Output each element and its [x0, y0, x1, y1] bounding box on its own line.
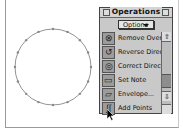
remove-overlap-icon: ⊗	[102, 32, 115, 45]
contour-point[interactable]	[87, 51, 89, 53]
op-remove-overlap[interactable]: ⊗ Remove Overlap	[101, 32, 162, 46]
scroll-down-arrow-icon[interactable]: ⇩	[162, 91, 171, 101]
contour-point[interactable]	[79, 93, 81, 95]
contour-point[interactable]	[90, 66, 92, 68]
operations-list: ⊗ Remove Overlap ↺ Reverse Direction ◎ C…	[101, 32, 162, 114]
grow-box[interactable]	[162, 104, 171, 114]
operations-palette: Operations Options ⊗ Remove Overlap ↺ Re…	[99, 7, 173, 114]
op-correct-direction[interactable]: ◎ Correct Direction	[101, 60, 162, 74]
palette-title-bar[interactable]: Operations	[100, 8, 172, 18]
op-envelope[interactable]: ▱ Envelope...	[101, 88, 162, 102]
contour-point[interactable]	[17, 51, 19, 53]
mouse-pointer-icon	[107, 109, 115, 121]
zoom-box[interactable]	[162, 9, 169, 16]
op-label: Remove Overlap	[118, 34, 162, 42]
contour-point[interactable]	[37, 101, 39, 103]
envelope-icon: ▱	[102, 88, 115, 101]
scroll-thumb[interactable]	[162, 74, 171, 88]
contour-point[interactable]	[25, 39, 27, 41]
vertical-scrollbar[interactable]: ⇧ ⇩	[161, 32, 171, 114]
contour-point[interactable]	[17, 80, 19, 82]
options-dropdown[interactable]: Options	[118, 20, 154, 29]
op-reverse-direction[interactable]: ↺ Reverse Direction	[101, 46, 162, 60]
correct-direction-icon: ◎	[102, 60, 115, 73]
op-label: Envelope...	[118, 90, 162, 98]
op-label: Add Points	[118, 104, 162, 112]
contour-point[interactable]	[87, 80, 89, 82]
op-label: Reverse Direction	[118, 48, 162, 56]
contour-point[interactable]	[14, 66, 16, 68]
contour-point[interactable]	[52, 104, 54, 106]
contour-point[interactable]	[66, 101, 68, 103]
contour-point[interactable]	[25, 93, 27, 95]
contour-point[interactable]	[37, 31, 39, 33]
reverse-direction-icon: ↺	[102, 46, 115, 59]
op-label: Set Note	[118, 76, 162, 84]
scroll-up-arrow-icon[interactable]: ⇧	[162, 32, 171, 42]
palette-title: Operations	[110, 7, 163, 16]
contour-point[interactable]	[79, 39, 81, 41]
contour-point[interactable]	[52, 28, 54, 30]
note-icon: ▭	[102, 74, 115, 87]
op-label: Correct Direction	[118, 62, 162, 70]
dropdown-arrow-icon	[143, 24, 149, 27]
op-set-note[interactable]: ▭ Set Note	[101, 74, 162, 88]
contour-point[interactable]	[66, 31, 68, 33]
